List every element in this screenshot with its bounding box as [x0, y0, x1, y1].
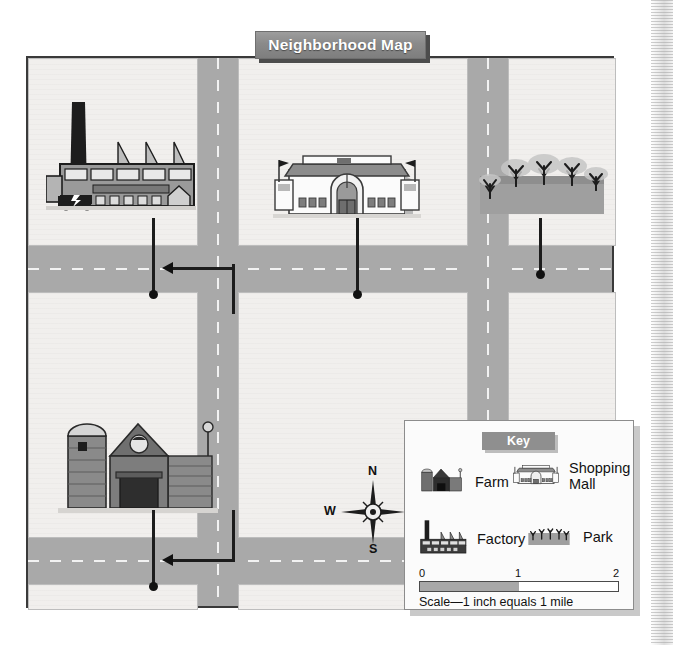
farm-icon: [419, 463, 463, 501]
connector-arrowhead: [162, 262, 173, 274]
connector-arrowhead: [162, 554, 173, 566]
map-feature-shopping-mall[interactable]: [273, 146, 421, 220]
connector-line: [166, 267, 234, 270]
key-label-farm: Farm: [475, 474, 509, 490]
map-key-legend: Key Farm: [404, 420, 640, 616]
leader-line-factory: [146, 218, 162, 300]
compass-label-south: S: [369, 542, 377, 556]
connector-upper-road: [152, 264, 234, 272]
map-feature-park[interactable]: [476, 150, 608, 218]
leader-line-park: [533, 218, 549, 300]
key-label-factory: Factory: [477, 531, 525, 547]
map-block-bottom-left: [28, 584, 198, 610]
connector-line: [232, 510, 235, 562]
connector-lower-road: [152, 556, 234, 564]
road-horizontal-upper: [28, 246, 612, 292]
map-feature-farm[interactable]: [58, 414, 218, 534]
connector-lower-elbow: [232, 510, 238, 562]
map-feature-factory[interactable]: [46, 96, 196, 218]
leader-line-endpoint-dot: [353, 290, 362, 299]
connector-upper-elbow: [232, 264, 238, 314]
compass-label-west: W: [324, 504, 336, 518]
leader-line-endpoint-dot: [149, 582, 158, 591]
banner-plate: Neighborhood Map: [255, 31, 426, 59]
scale-tick-0: 0: [419, 567, 425, 579]
map-title-banner: Neighborhood Map: [255, 31, 430, 61]
page-scan-edge: [651, 0, 673, 645]
leader-line-farm: [146, 510, 162, 592]
scale-tick-1: 1: [515, 567, 521, 579]
key-label-park: Park: [583, 529, 613, 545]
leader-line-stem: [356, 218, 359, 294]
scale-bar-fill: [420, 582, 519, 591]
key-heading-plate: Key: [482, 432, 555, 450]
road-centerline-dashes: [28, 268, 612, 270]
leader-line-endpoint-dot: [149, 290, 158, 299]
key-heading-label: Key: [507, 434, 530, 448]
shopping-mall-icon: [273, 146, 421, 220]
scale-tick-labels: 0 1 2: [419, 567, 619, 581]
farm-icon: [58, 414, 218, 534]
factory-icon: [46, 96, 196, 218]
leader-line-stem: [152, 218, 155, 294]
key-item-farm[interactable]: Farm: [419, 463, 509, 501]
park-icon: [527, 521, 571, 553]
leader-line-stem: [539, 218, 542, 274]
key-heading-banner: Key: [482, 432, 558, 452]
leader-line-stem: [152, 510, 155, 586]
key-label-shopping-mall: Shopping Mall: [569, 460, 630, 492]
map-scale-bar: 0 1 2 Scale—1 inch equals 1 mile: [419, 567, 619, 609]
scale-tick-2: 2: [613, 567, 619, 579]
factory-icon: [417, 519, 467, 559]
shopping-mall-icon: [513, 459, 559, 493]
key-item-shopping-mall[interactable]: Shopping Mall: [513, 459, 630, 493]
scale-bar-graphic: [419, 581, 619, 592]
key-item-park[interactable]: Park: [527, 521, 613, 553]
compass-label-north: N: [368, 464, 377, 478]
key-panel: Key Farm: [404, 420, 634, 610]
page-title: Neighborhood Map: [268, 36, 412, 54]
scale-caption: Scale—1 inch equals 1 mile: [419, 595, 619, 609]
park-icon: [476, 150, 608, 218]
connector-line: [166, 559, 234, 562]
leader-line-endpoint-dot: [536, 270, 545, 279]
leader-line-shopping-mall: [350, 218, 366, 300]
connector-line: [232, 264, 235, 314]
key-item-factory[interactable]: Factory: [417, 519, 525, 559]
